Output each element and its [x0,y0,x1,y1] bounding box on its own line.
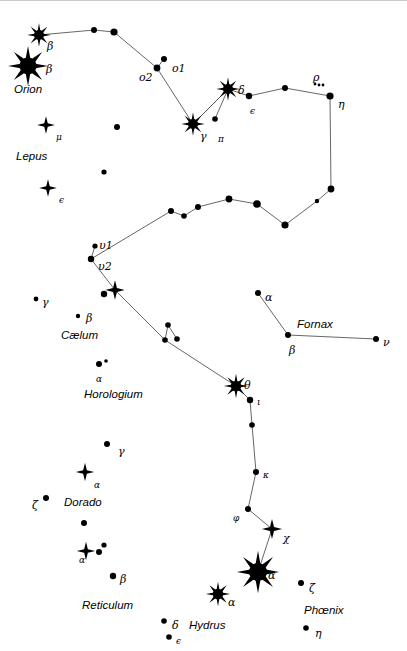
star-marker [114,124,120,130]
star-marker [322,84,325,87]
star-marker [166,634,172,640]
star-marker [281,221,288,228]
star-marker [328,186,335,193]
star-marker [253,469,259,475]
star-marker [101,291,107,297]
star-marker [373,336,379,342]
constellation-line [258,293,376,339]
star-marker [96,361,102,367]
star-marker [43,495,49,501]
star-marker [104,441,110,447]
star-marker [154,65,161,72]
constellation-line [39,30,331,572]
star-marker [253,200,261,208]
star-marker [165,322,171,328]
star-marker [314,83,317,86]
star-marker [212,116,218,122]
star-marker [181,112,205,136]
star-marker [255,290,261,296]
star-marker [246,93,252,99]
star-marker [168,208,174,214]
star-marker [101,169,106,174]
star-marker [76,463,94,481]
star-marker [77,542,95,560]
star-marker [162,337,168,343]
star-marker [91,27,97,33]
star-marker [101,542,106,547]
star-marker [195,204,201,210]
star-marker [174,336,180,342]
star-marker [161,618,167,624]
star-marker [282,85,288,91]
star-marker [245,506,251,512]
star-marker [88,256,94,262]
star-marker [110,573,116,579]
star-marker [206,582,230,606]
star-marker [104,359,108,363]
star-marker [285,332,291,338]
star-marker [224,374,248,398]
star-marker [247,397,253,403]
star-marker [303,625,309,631]
star-marker [27,23,51,47]
star-marker [315,199,319,203]
star-marker [76,314,80,318]
star-marker [96,549,102,555]
star-marker [216,77,240,101]
star-marker [226,196,233,203]
star-marker [326,92,333,99]
star-marker [34,297,39,302]
star-marker [8,46,48,86]
star-marker [37,116,55,134]
star-marker [92,243,97,248]
star-marker [237,551,279,593]
star-marker [110,28,117,35]
star-marker [81,520,87,526]
star-marker [318,84,321,87]
star-chart: OrionLepusCælumHorologiumFornaxDoradoRet… [0,0,407,651]
sky-canvas [0,0,407,651]
constellation-lines [39,30,376,572]
star-marker [39,179,57,197]
star-marker [262,519,282,539]
star-marker [298,580,304,586]
star-marker [161,56,167,62]
star-marker [181,213,187,219]
star-marker [249,422,255,428]
star-markers [8,23,379,640]
